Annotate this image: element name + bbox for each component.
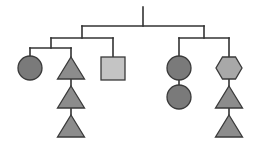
square-middle-node [101,57,125,80]
diagram-svg [0,0,255,149]
circle-right-2-node [167,85,191,109]
hexagon-right-node [216,57,242,79]
circle-right-1-node [167,56,191,80]
tree-diagram [0,0,255,149]
circle-left-node [18,56,42,80]
